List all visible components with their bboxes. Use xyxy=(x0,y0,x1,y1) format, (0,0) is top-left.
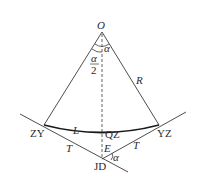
label-tangent-right: T xyxy=(133,139,140,151)
label-curve-mid: QZ xyxy=(105,128,120,140)
radius-left-line xyxy=(44,32,102,125)
label-center-o: O xyxy=(97,19,105,31)
label-curve-end: YZ xyxy=(157,127,172,139)
label-intersection: JD xyxy=(94,160,106,172)
tangent-left-line xyxy=(20,114,128,172)
circular-arc-curve xyxy=(44,125,159,133)
label-arc-length: L xyxy=(72,124,79,136)
curve-geometry-diagram: O α α 2 R ZY L QZ YZ T E T α JD xyxy=(0,0,200,188)
label-radius: R xyxy=(135,74,143,86)
label-half-angle-denominator: 2 xyxy=(91,64,97,76)
label-external-distance: E xyxy=(103,142,111,154)
label-tangent-left: T xyxy=(66,142,73,154)
label-deflection-angle: α xyxy=(113,151,119,163)
radius-right-line xyxy=(102,32,159,125)
label-central-angle: α xyxy=(104,42,110,54)
label-half-angle-numerator: α xyxy=(91,52,97,64)
label-curve-start: ZY xyxy=(30,127,45,139)
